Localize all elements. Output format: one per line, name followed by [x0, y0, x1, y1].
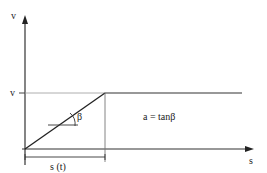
y-axis-arrow-icon: [22, 15, 28, 24]
angle-label: β: [77, 111, 82, 122]
x-axis-arrow-icon: [245, 146, 254, 152]
ramp-line: [25, 93, 105, 149]
velocity-distance-diagram: v s v β a = tanβ s (t): [0, 0, 267, 173]
dimension-label: s (t): [50, 161, 66, 173]
v-level-label: v: [10, 87, 15, 98]
y-axis-label: v: [11, 10, 16, 21]
equation-label: a = tanβ: [143, 111, 175, 122]
x-axis-label: s: [249, 155, 253, 166]
